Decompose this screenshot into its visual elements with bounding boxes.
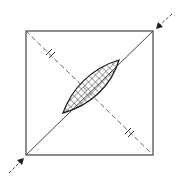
- geometry-diagram: [0, 0, 180, 181]
- equal-mark-icon: [46, 49, 55, 58]
- arrow-icon-top-right: [156, 14, 172, 29]
- arrow-icon-bottom-left: [9, 158, 24, 173]
- hatched-lens-region: [63, 60, 119, 113]
